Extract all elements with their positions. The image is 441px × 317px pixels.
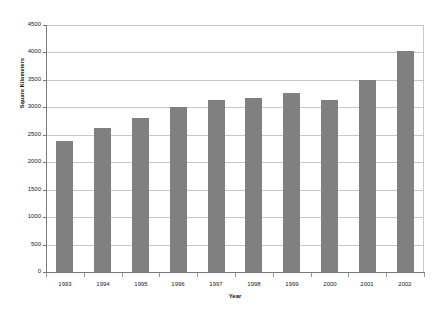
bar [56, 141, 73, 272]
y-axis-tick-label: 4000 [28, 48, 41, 55]
x-axis-tick-label: 1996 [159, 280, 197, 288]
y-axis-tick-mark [43, 52, 46, 53]
x-axis-tick-label: 1998 [235, 280, 273, 288]
gridline [46, 25, 424, 26]
bar [94, 128, 111, 272]
y-axis-tick-mark [43, 217, 46, 218]
bar [321, 100, 338, 272]
y-axis-line [46, 25, 47, 273]
bar [397, 51, 414, 272]
y-axis-tick-mark [43, 162, 46, 163]
gridline [46, 52, 424, 53]
x-axis-tick-mark [122, 273, 123, 277]
y-axis-tick-mark [43, 25, 46, 26]
x-axis-tick-label: 1994 [84, 280, 122, 288]
y-axis-title: Square Kilometers [17, 44, 27, 122]
x-axis-tick-mark [273, 273, 274, 277]
x-axis-tick-mark [46, 273, 47, 277]
bar [208, 100, 225, 272]
y-axis-tick-mark [43, 190, 46, 191]
x-axis-tick-label: 1993 [46, 280, 84, 288]
y-axis-tick-label: 500 [31, 241, 41, 248]
x-axis-tick-mark [235, 273, 236, 277]
x-axis-tick-mark [84, 273, 85, 277]
y-axis-tick-label: 3000 [28, 103, 41, 110]
y-axis-tick-label: 1000 [28, 213, 41, 220]
bar [359, 80, 376, 272]
x-axis-tick-label: 1999 [273, 280, 311, 288]
x-axis-tick-mark [424, 273, 425, 277]
y-axis-tick-label: 3500 [28, 76, 41, 83]
x-axis-tick-label: 1997 [197, 280, 235, 288]
y-axis-tick-mark [43, 245, 46, 246]
bar [283, 93, 300, 272]
bar [245, 98, 262, 272]
y-axis-tick-label: 4500 [28, 21, 41, 28]
x-axis-tick-label: 1995 [122, 280, 160, 288]
bar [132, 118, 149, 272]
x-axis-tick-mark [386, 273, 387, 277]
x-axis-tick-label: 2000 [311, 280, 349, 288]
x-axis-tick-mark [311, 273, 312, 277]
y-axis-tick-label: 2000 [28, 158, 41, 165]
bar-chart: 050010001500200025003000350040004500 199… [0, 0, 441, 317]
x-axis-tick-label: 2002 [386, 280, 424, 288]
y-axis-tick-label: 0 [38, 268, 41, 275]
y-axis-tick-label: 2500 [28, 131, 41, 138]
x-axis-tick-mark [197, 273, 198, 277]
x-axis-tick-mark [159, 273, 160, 277]
y-axis-tick-label: 1500 [28, 186, 41, 193]
x-axis-title: Year [46, 292, 424, 300]
y-axis-tick-mark [43, 107, 46, 108]
x-axis-tick-mark [348, 273, 349, 277]
bar [170, 107, 187, 272]
y-axis-tick-mark [43, 135, 46, 136]
y-axis-tick-mark [43, 80, 46, 81]
x-axis-tick-label: 2001 [348, 280, 386, 288]
